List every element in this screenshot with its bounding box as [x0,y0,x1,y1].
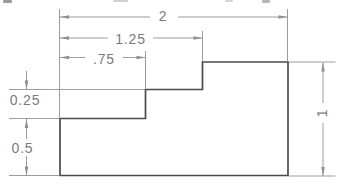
dim-text-overall-height: 1 [314,109,330,118]
dim-text-upper-step-width: 1.25 [115,31,145,47]
arrowhead-icon [321,63,325,72]
dim-text-overall-width: 2 [159,8,168,24]
arrowhead-icon [25,119,29,128]
arrowhead-icon [279,15,288,19]
arrowhead-icon [194,36,203,40]
dim-text-base-height: 0.5 [12,140,34,156]
dimensioned-stepped-block-drawing: 2 1.25 .75 0.25 0.5 1 [0,0,338,186]
technical-drawing-screenshot: 2 1.25 .75 0.25 0.5 1 [0,0,338,186]
dim-text-step-height: 0.25 [10,92,40,108]
arrowhead-icon [60,36,69,40]
arrowhead-icon [321,167,325,176]
dim-text-lower-step-width: .75 [93,51,115,67]
arrowhead-icon [60,15,69,19]
arrowhead-icon [25,167,29,176]
arrowhead-icon [60,56,69,60]
arrowhead-icon [137,56,146,60]
object-outline [60,62,288,176]
arrowhead-icon [25,81,29,90]
